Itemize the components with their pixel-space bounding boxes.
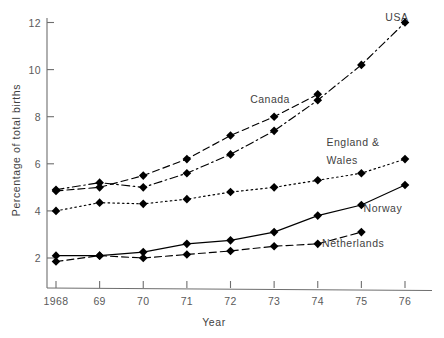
x-tick-label: 69 <box>93 295 105 307</box>
series-annotation: Canada <box>250 93 290 105</box>
data-point-marker <box>139 200 148 209</box>
data-point-marker <box>270 183 279 192</box>
data-point-marker <box>226 150 235 159</box>
x-tick-label: 1968 <box>44 295 69 307</box>
series-annotation: Netherlands <box>322 237 384 249</box>
data-point-marker <box>183 240 192 249</box>
x-tick-label: 71 <box>181 295 193 307</box>
series-annotation: Norway <box>364 202 403 214</box>
x-tick-label: 70 <box>137 295 149 307</box>
y-tick-label: 12 <box>29 17 41 29</box>
data-point-marker <box>313 240 322 249</box>
data-point-marker <box>313 211 322 220</box>
line-chart: 24681012 19686970717273747576 USACanadaE… <box>0 0 444 338</box>
data-point-marker <box>139 183 148 192</box>
data-point-marker <box>270 242 279 251</box>
data-point-marker <box>401 155 410 164</box>
data-point-marker <box>270 112 279 121</box>
series-annotation: USA <box>385 11 408 23</box>
data-point-marker <box>95 251 104 260</box>
data-point-marker <box>183 250 192 259</box>
data-point-marker <box>270 127 279 136</box>
data-point-marker <box>226 236 235 245</box>
data-point-marker <box>139 171 148 180</box>
x-tick-label: 73 <box>268 295 280 307</box>
y-tick-label: 4 <box>35 205 41 217</box>
y-tick-label: 8 <box>35 111 41 123</box>
data-point-marker <box>226 131 235 140</box>
y-tick-label: 10 <box>29 64 41 76</box>
x-axis: 19686970717273747576 <box>44 281 432 307</box>
data-point-marker <box>226 188 235 197</box>
data-point-marker <box>95 198 104 207</box>
x-axis-title: Year <box>202 316 226 328</box>
y-axis: 24681012 <box>29 17 54 289</box>
x-tick-label: 72 <box>224 295 236 307</box>
data-point-marker <box>52 207 61 216</box>
y-tick-label: 6 <box>35 158 41 170</box>
series-line-england-wales <box>56 159 405 211</box>
data-point-marker <box>139 254 148 263</box>
data-point-marker <box>401 181 410 190</box>
data-point-marker <box>183 155 192 164</box>
data-point-marker <box>183 169 192 178</box>
y-axis-title: Percentage of total births <box>10 84 22 216</box>
y-tick-group: 24681012 <box>29 17 54 265</box>
x-axis-line <box>47 288 432 291</box>
series-annotation: Wales <box>326 154 357 166</box>
data-point-marker <box>95 183 104 192</box>
series-annotation: England & <box>326 136 379 148</box>
chart-container: 24681012 19686970717273747576 USACanadaE… <box>0 0 444 338</box>
x-tick-label: 75 <box>355 295 367 307</box>
x-tick-label: 74 <box>312 295 324 307</box>
data-point-marker <box>183 195 192 204</box>
x-tick-label: 76 <box>399 295 411 307</box>
data-point-marker <box>357 228 366 237</box>
y-tick-label: 2 <box>35 252 41 264</box>
data-point-marker <box>226 247 235 256</box>
x-tick-group: 19686970717273747576 <box>44 281 412 307</box>
data-point-marker <box>357 169 366 178</box>
data-point-marker <box>270 228 279 237</box>
data-point-marker <box>52 187 61 196</box>
data-point-marker <box>313 176 322 185</box>
